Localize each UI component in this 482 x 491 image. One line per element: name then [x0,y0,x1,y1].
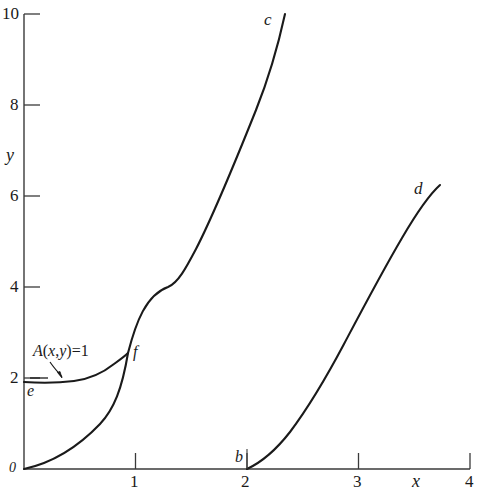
chart-figure: 10 8 6 4 2 1 2 3 4 0 y x c d b e f A(x,y… [0,0,482,491]
curve-label-d: d [414,180,423,197]
annotation-arrowhead-icon [58,372,63,379]
curve-d [247,185,440,469]
y-tick-label-2: 2 [10,369,19,386]
plot-canvas [0,0,482,491]
curve-c [24,14,285,469]
level-curve-annotation: A(x,y)=1 [33,343,89,359]
x-axis-label: x [412,472,420,490]
y-tick-label-6: 6 [10,187,19,204]
x-tick-label-3: 3 [353,473,362,490]
curve-label-c: c [264,11,272,28]
x-tick-label-4: 4 [465,473,474,490]
annotation-function-name: A [33,342,43,359]
x-tick-label-2: 2 [241,473,250,490]
point-label-f: f [133,344,137,360]
y-tick-label-4: 4 [10,278,19,295]
y-tick-label-8: 8 [10,96,19,113]
point-label-e: e [27,383,34,399]
x-tick-label-1: 1 [130,473,139,490]
origin-label: 0 [9,461,16,475]
annotation-equals-value: =1 [72,342,89,359]
point-label-b: b [235,449,243,465]
y-tick-label-10: 10 [2,5,19,22]
y-axis-label: y [6,146,14,164]
